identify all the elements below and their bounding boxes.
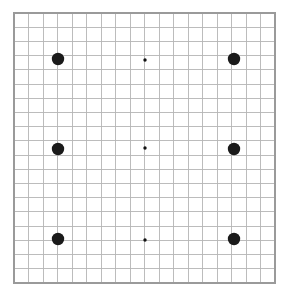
dot-grid-figure [0, 0, 289, 297]
figure-canvas [0, 0, 289, 297]
dot-middle-center [143, 146, 146, 149]
dot-top-center [143, 58, 146, 61]
dot-top-right [228, 53, 240, 65]
dot-bottom-left [52, 233, 64, 245]
marker-dots-group [52, 53, 240, 245]
dot-bottom-center [143, 238, 146, 241]
dot-middle-left [52, 143, 64, 155]
dot-bottom-right [228, 233, 240, 245]
dot-top-left [52, 53, 64, 65]
dot-middle-right [228, 143, 240, 155]
